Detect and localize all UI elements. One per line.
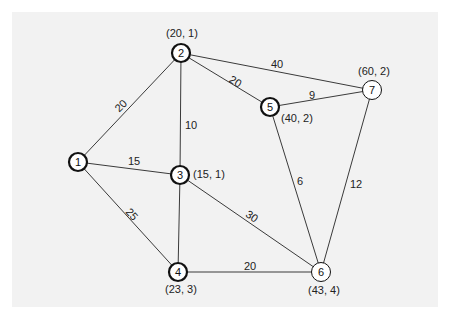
weight-5-6: 6 <box>297 175 303 187</box>
coord-node-6: (43, 4) <box>308 284 340 296</box>
coord-node-2: (20, 1) <box>166 27 198 39</box>
weight-2-7: 40 <box>271 58 283 70</box>
weight-5-7: 9 <box>309 89 315 101</box>
coord-node-7: (60, 2) <box>358 65 390 77</box>
coord-node-3: (15, 1) <box>193 168 225 180</box>
node-label: 5 <box>267 101 273 113</box>
node-6: 6 <box>312 263 331 282</box>
edge-3-6 <box>180 175 321 272</box>
edge-5-7 <box>270 90 372 107</box>
node-label: 4 <box>175 266 181 278</box>
node-label: 6 <box>318 266 324 278</box>
edge-5-6 <box>270 107 321 272</box>
weight-4-6: 20 <box>244 260 256 272</box>
weight-1-2: 20 <box>112 97 129 114</box>
weight-1-3: 15 <box>128 155 140 167</box>
node-3: 3 <box>171 166 189 184</box>
edge-1-2 <box>78 53 181 162</box>
edge-2-3 <box>180 53 181 175</box>
node-label: 7 <box>369 84 375 96</box>
network-diagram: 20 15 25 10 20 40 30 20 6 9 12 1 2 3 4 5… <box>0 0 450 318</box>
weight-2-5: 20 <box>227 73 244 90</box>
weight-2-3: 10 <box>185 119 197 131</box>
node-2: 2 <box>172 44 190 62</box>
node-label: 2 <box>178 47 184 59</box>
node-5: 5 <box>261 98 279 116</box>
node-label: 1 <box>75 156 81 168</box>
edge-3-4 <box>178 175 180 272</box>
weight-1-4: 25 <box>124 206 141 223</box>
edge-7-6 <box>321 90 372 272</box>
node-1: 1 <box>69 153 87 171</box>
weight-7-6: 12 <box>350 178 362 190</box>
coord-node-4: (23, 3) <box>165 283 197 295</box>
edge-2-5 <box>181 53 270 107</box>
node-4: 4 <box>169 263 187 281</box>
weight-3-6: 30 <box>244 208 261 225</box>
node-7: 7 <box>363 81 382 100</box>
coord-node-5: (40, 2) <box>281 112 313 124</box>
node-label: 3 <box>177 169 183 181</box>
